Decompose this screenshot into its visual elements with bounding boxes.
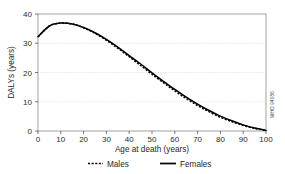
- chart-figure: 40 30 20 10 0 0 10 20 30 40 50: [0, 0, 285, 174]
- x-tickmarks: [38, 131, 266, 134]
- x-tick-label-80: 80: [216, 135, 225, 144]
- y-tick-label-20: 20: [23, 69, 32, 78]
- dalys-by-age-line-chart: 40 30 20 10 0 0 10 20 30 40 50: [0, 0, 285, 174]
- x-tick-label-50: 50: [148, 135, 157, 144]
- x-tick-label-100: 100: [259, 135, 273, 144]
- x-tick-label-30: 30: [102, 135, 111, 144]
- who-credit-label: WHO 94086: [270, 91, 275, 118]
- y-tick-label-30: 30: [23, 39, 32, 48]
- legend-label-males: Males: [107, 160, 129, 169]
- x-axis-title: Age at death (years): [115, 145, 189, 154]
- x-tick-label-90: 90: [239, 135, 248, 144]
- x-tick-label-20: 20: [79, 135, 88, 144]
- x-tick-labels: 0 10 20 30 40 50 60 70 80 90 100: [36, 135, 273, 144]
- chart-legend: Males Females: [88, 160, 211, 169]
- x-tick-label-40: 40: [125, 135, 134, 144]
- x-tick-label-70: 70: [193, 135, 202, 144]
- x-tick-label-0: 0: [36, 135, 41, 144]
- legend-label-females: Females: [180, 160, 211, 169]
- y-tick-labels: 40 30 20 10 0: [23, 10, 32, 136]
- x-tick-label-10: 10: [56, 135, 65, 144]
- y-tick-label-40: 40: [23, 10, 32, 19]
- y-tick-label-0: 0: [28, 127, 33, 136]
- y-tick-label-10: 10: [23, 98, 32, 107]
- y-axis-title: DALYs (years): [7, 46, 16, 99]
- x-tick-label-60: 60: [170, 135, 179, 144]
- y-tickmarks: [35, 14, 38, 131]
